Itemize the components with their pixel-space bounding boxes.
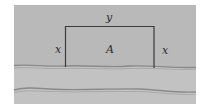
river-region	[14, 65, 196, 104]
right-side-label: x	[162, 45, 168, 56]
diagram-canvas	[0, 0, 210, 112]
left-side-label: x	[55, 44, 61, 55]
area-label: A	[106, 44, 114, 55]
top-side-label: y	[106, 12, 112, 23]
